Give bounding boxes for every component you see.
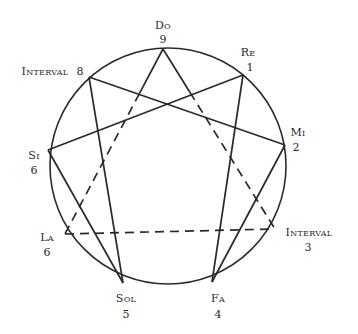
point-name: Si xyxy=(28,149,39,162)
point-interval-8: Interval 8 xyxy=(22,65,84,78)
line-do-int3-dashed xyxy=(190,92,275,229)
point-number: 9 xyxy=(160,33,167,46)
point-fa: Fa 4 xyxy=(211,292,225,321)
point-name: Sol xyxy=(116,292,137,305)
point-number: 6 xyxy=(44,246,51,259)
point-do: Do 9 xyxy=(155,19,171,46)
point-la: La 6 xyxy=(40,231,54,259)
point-name: La xyxy=(40,231,54,244)
point-number: 5 xyxy=(123,308,130,321)
point-sol: Sol 5 xyxy=(116,292,137,321)
point-interval-3: Interval 3 xyxy=(286,226,333,254)
line-si-re xyxy=(48,75,243,150)
point-number: 1 xyxy=(247,61,254,74)
line-re-fa xyxy=(212,75,243,282)
point-name: Interval xyxy=(286,226,333,239)
point-number: 6 xyxy=(31,164,38,177)
point-name: Fa xyxy=(211,292,225,305)
point-mi: Mi 2 xyxy=(290,126,305,154)
line-do-la-dashed xyxy=(65,93,139,234)
point-re: Re 1 xyxy=(241,46,256,74)
point-number: 8 xyxy=(77,65,84,78)
point-number: 4 xyxy=(215,308,222,321)
line-do-la-solid xyxy=(139,49,163,93)
point-name: Mi xyxy=(290,126,305,139)
point-si: Si 6 xyxy=(28,149,39,177)
line-la-int3 xyxy=(65,229,275,234)
point-name: Interval xyxy=(22,65,69,78)
point-name: Re xyxy=(241,46,256,59)
point-number: 3 xyxy=(305,241,312,254)
point-name: Do xyxy=(155,19,171,32)
enneagram-circle xyxy=(50,48,286,284)
point-number: 2 xyxy=(293,141,300,154)
line-do-int3-solid xyxy=(163,49,190,92)
enneagram-diagram: Do 9 Re 1 Mi 2 Interval 3 Fa 4 Sol 5 La … xyxy=(0,0,358,334)
